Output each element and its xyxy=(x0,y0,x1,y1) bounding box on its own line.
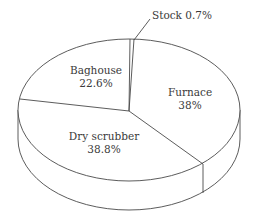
pie-chart xyxy=(0,0,260,224)
label-baghouse-name: Baghouse xyxy=(66,64,126,77)
label-dry-scrubber-name: Dry scrubber xyxy=(66,130,142,143)
label-furnace-value: 38% xyxy=(160,99,220,112)
label-baghouse: Baghouse 22.6% xyxy=(66,64,126,90)
label-dry-scrubber-value: 38.8% xyxy=(66,143,142,156)
label-baghouse-value: 22.6% xyxy=(66,77,126,90)
label-furnace: Furnace 38% xyxy=(160,86,220,112)
label-dry-scrubber: Dry scrubber 38.8% xyxy=(66,130,142,156)
label-stock: Stock 0.7% xyxy=(152,9,212,22)
stock-leader-line xyxy=(134,19,150,40)
label-furnace-name: Furnace xyxy=(160,86,220,99)
label-stock-text: Stock 0.7% xyxy=(152,9,212,21)
